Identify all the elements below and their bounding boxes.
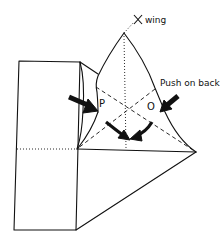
lower-diagonal: [76, 152, 196, 230]
curved-arrow-left: [106, 122, 130, 140]
base-line: [77, 149, 196, 152]
label-point-o: O: [147, 101, 155, 112]
x-wing-leader: [124, 22, 134, 33]
origami-diagram: wing Push on back P O: [0, 0, 223, 249]
label-x-wing: wing: [145, 15, 166, 25]
left-panel: [14, 61, 80, 230]
valley-fold-p: [96, 87, 196, 152]
x-mark-icon: [134, 15, 142, 24]
panel-top-flap-edge: [80, 62, 98, 74]
push-arrow-right: [160, 96, 178, 112]
label-point-p: P: [99, 98, 105, 109]
valley-fold-o: [77, 89, 155, 149]
curved-arrow-right: [130, 122, 152, 141]
label-push-on-back: Push on back: [160, 78, 220, 88]
